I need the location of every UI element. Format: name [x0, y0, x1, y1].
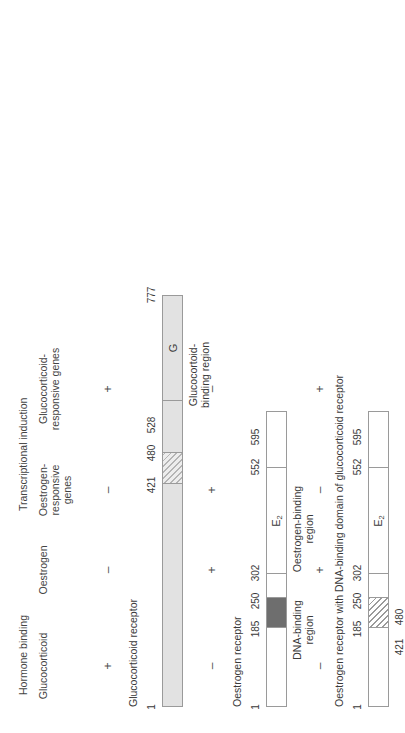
segment-r3-dna-binding-swap	[369, 598, 388, 628]
tick-r1-777: 777	[146, 283, 157, 307]
tick-r2-552: 552	[250, 455, 261, 479]
e2-glyph-row3: E2	[372, 515, 386, 527]
region-label-glucocorticoid-binding: Glucocortoid- binding region	[188, 327, 212, 423]
tick-r1-528: 528	[146, 413, 157, 437]
result-r3-c1: –	[314, 659, 327, 673]
tick-r2-595: 595	[250, 425, 261, 449]
result-r3-c2: +	[314, 563, 327, 577]
result-r1-c1: +	[102, 659, 115, 673]
tick-r2-302: 302	[250, 561, 261, 585]
e2-glyph-row2: E2	[270, 515, 284, 527]
segment-r2-dna-binding	[267, 598, 286, 628]
segment-r2-n-terminal	[267, 628, 286, 706]
segment-r3-n-terminal	[369, 628, 388, 706]
region-label-dna-binding: DNA-binding region	[292, 589, 316, 671]
column-group-transcriptional-induction: Transcriptional induction	[18, 398, 30, 511]
segment-r1-n-terminal	[163, 484, 182, 706]
column-header-glucocorticoid-responsive-genes: Glucocorticoid- responsive genes	[38, 333, 62, 445]
bar-glucocorticoid-receptor: G	[162, 295, 183, 707]
tick-r1-480: 480	[146, 441, 157, 465]
segment-r2-hinge	[267, 574, 286, 598]
segment-label-E2-row3: E2	[369, 468, 388, 574]
region-label-oestrogen-binding: Oestrogen-binding region	[292, 471, 316, 587]
segment-r1-dna-binding	[163, 452, 182, 484]
segment-label-G: G	[163, 296, 182, 400]
tick-r3-552: 552	[352, 455, 363, 479]
tick-r3-480: 480	[394, 605, 405, 629]
tick-r1-1: 1	[146, 699, 157, 715]
tick-r3-595: 595	[352, 425, 363, 449]
tick-r3-250: 250	[352, 589, 363, 613]
result-r1-c2: –	[102, 563, 115, 577]
tick-r3-302: 302	[352, 561, 363, 585]
tick-r1-421: 421	[146, 473, 157, 497]
row-title-chimeric-receptor: Oestrogen receptor with DNA-binding doma…	[334, 375, 346, 707]
segment-label-E2-row2: E2	[267, 468, 286, 574]
result-r2-c1: –	[206, 659, 219, 673]
result-r3-c4: +	[314, 382, 327, 396]
row-title-oestrogen-receptor: Oestrogen receptor	[232, 617, 244, 707]
tick-r2-185: 185	[250, 617, 261, 641]
tick-r2-1: 1	[250, 699, 261, 715]
result-r1-c4: +	[102, 382, 115, 396]
column-header-glucocorticoid: Glucocorticoid	[38, 623, 50, 709]
result-r1-c3: –	[102, 483, 115, 497]
tick-r3-1: 1	[352, 699, 363, 715]
segment-r2-f-domain	[267, 412, 286, 468]
tick-r3-421: 421	[394, 635, 405, 659]
column-group-hormone-binding: Hormone binding	[18, 615, 30, 695]
bar-oestrogen-receptor: E2	[266, 411, 287, 707]
segment-r3-hinge	[369, 574, 388, 598]
column-header-oestrogen: Oestrogen	[38, 535, 50, 605]
tick-r2-250: 250	[250, 589, 261, 613]
column-header-oestrogen-responsive-genes: Oestrogen- responsive genes	[38, 453, 73, 527]
result-r2-c3: +	[206, 483, 219, 497]
result-r2-c2: +	[206, 563, 219, 577]
bar-chimeric-receptor: E2	[368, 411, 389, 707]
segment-r1-hinge	[163, 400, 182, 452]
segment-r3-f-domain	[369, 412, 388, 468]
result-r3-c3: –	[314, 483, 327, 497]
row-title-glucocorticoid-receptor: Glucocorticoid receptor	[128, 599, 140, 707]
tick-r3-185: 185	[352, 617, 363, 641]
